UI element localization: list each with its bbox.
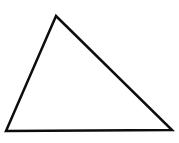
triangle-figure bbox=[0, 0, 179, 143]
drawing-canvas bbox=[0, 0, 179, 143]
background bbox=[0, 0, 179, 143]
